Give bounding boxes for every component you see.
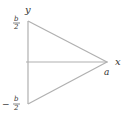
top-fraction-label: b 2 [13, 15, 20, 31]
bottom-sign: − [2, 99, 10, 109]
triangle-diagram: y x a b 2 − b 2 [0, 0, 128, 122]
bottom-fraction-label: − b 2 [2, 95, 20, 112]
lower-edge [28, 62, 107, 104]
y-axis-label: y [24, 4, 31, 15]
bottom-denominator: 2 [13, 104, 19, 112]
bottom-numerator: b [14, 95, 19, 103]
x-axis-label: x [115, 56, 121, 67]
top-denominator: 2 [13, 23, 19, 31]
upper-edge [28, 21, 107, 62]
top-numerator: b [14, 15, 19, 23]
apex-label: a [104, 67, 109, 77]
